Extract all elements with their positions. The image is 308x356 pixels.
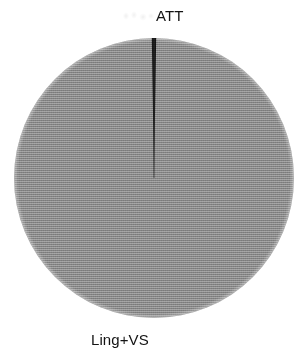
pie-chart-svg — [0, 0, 308, 356]
pie-plot-area: ATT Ling+VS — [0, 0, 308, 356]
pie-chart-figure: ATT Ling+VS — [0, 0, 308, 356]
pie-label-att: ATT — [156, 8, 184, 23]
pie-label-ling-vs: Ling+VS — [91, 332, 149, 347]
